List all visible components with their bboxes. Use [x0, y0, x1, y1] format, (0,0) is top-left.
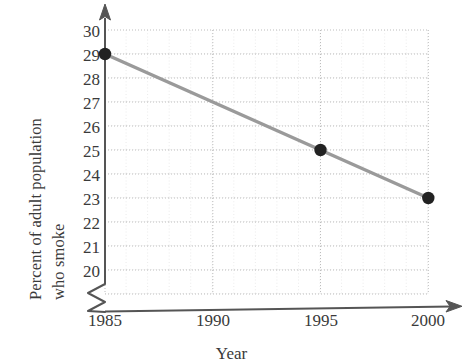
y-axis-arrowhead	[100, 4, 111, 20]
y-axis-break-symbol	[88, 277, 105, 312]
x-tick-label: 2000	[393, 312, 463, 329]
data-point-1995	[314, 144, 326, 156]
plot-area	[0, 0, 463, 359]
x-tick-label: 1985	[70, 312, 140, 329]
data-point-1985	[99, 48, 111, 60]
x-tick-label: 1990	[178, 312, 248, 329]
x-axis-title: Year	[0, 344, 463, 359]
x-axis-line	[105, 301, 462, 313]
data-point-2000	[422, 192, 434, 204]
x-tick-label: 1995	[286, 312, 356, 329]
smoking-trend-chart: Percent of adult population who smoke 30…	[0, 0, 463, 359]
grid-lines	[105, 30, 428, 294]
